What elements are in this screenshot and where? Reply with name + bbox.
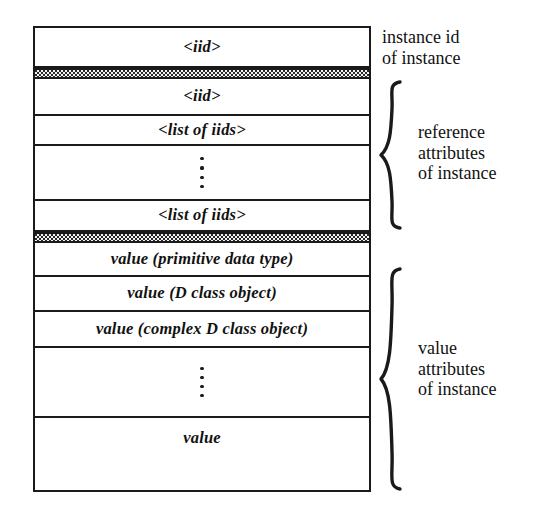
row-label-reference-list-first: <list of iids> [158, 122, 246, 139]
row-label-value-complex-d-class: value (complex D class object) [96, 321, 308, 338]
vertical-ellipsis-icon [200, 157, 203, 188]
row-value-complex-d-class: value (complex D class object) [35, 312, 369, 348]
row-reference-ellipsis [35, 146, 369, 201]
annotation-instance-id: instance id of instance [382, 27, 460, 68]
row-value-last: value [35, 418, 369, 459]
row-reference-list-last: <list of iids> [35, 201, 369, 232]
row-reference-list-first: <list of iids> [35, 116, 369, 146]
row-label-value-primitive: value (primitive data type) [111, 251, 294, 268]
curly-brace-icon-reference [378, 79, 412, 231]
row-label-value-d-class: value (D class object) [127, 285, 277, 302]
row-label-reference-iid: <iid> [183, 88, 220, 105]
row-value-ellipsis [35, 348, 369, 418]
row-reference-iid: <iid> [35, 79, 369, 116]
separator-band-after-instance-id [35, 68, 369, 79]
row-label-reference-list-last: <list of iids> [158, 207, 246, 224]
row-label-value-last: value [183, 430, 221, 447]
vertical-ellipsis-icon [200, 367, 203, 398]
curly-brace-icon-value [378, 266, 412, 492]
row-value-primitive: value (primitive data type) [35, 243, 369, 277]
annotation-reference-attributes: reference attributes of instance [418, 122, 496, 184]
record-rows: <iid> <iid> <list of iids> <list of iids… [35, 28, 369, 490]
separator-band-after-reference-attributes [35, 232, 369, 243]
row-label-instance-iid: <iid> [183, 39, 220, 56]
annotation-value-attributes: value attributes of instance [418, 338, 496, 400]
row-value-d-class: value (D class object) [35, 277, 369, 312]
instance-record-diagram: <iid> <iid> <list of iids> <list of iids… [0, 0, 558, 521]
record-box: <iid> <iid> <list of iids> <list of iids… [33, 26, 371, 492]
row-instance-iid: <iid> [35, 28, 369, 68]
